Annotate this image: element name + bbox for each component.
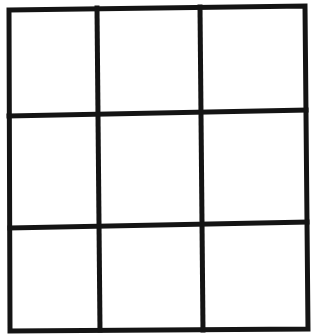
grid-cell-r1-c3 (201, 8, 306, 113)
grid-cell-r3-c2 (98, 225, 201, 330)
grid-cell-r1-c2 (98, 8, 201, 113)
grid-cells (9, 8, 306, 330)
grid-cell-r2-c2 (98, 113, 201, 225)
grid-cell-r3-c1 (9, 225, 98, 330)
grid-3x3 (0, 0, 316, 334)
grid-cell-r2-c3 (201, 113, 306, 225)
grid-vertical-line-1 (97, 8, 100, 330)
grid-vertical-line-2 (200, 7, 203, 330)
grid-cell-r3-c3 (201, 225, 306, 330)
grid-cell-r2-c1 (9, 113, 98, 225)
grid-cell-r1-c1 (9, 8, 98, 113)
